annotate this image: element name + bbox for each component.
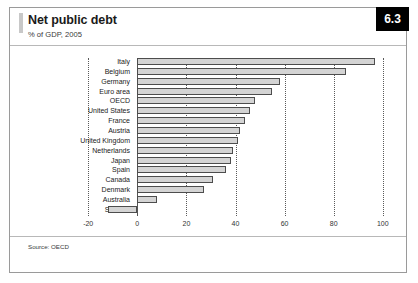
bar <box>137 127 240 134</box>
bar <box>137 97 255 104</box>
bar <box>137 147 233 154</box>
bar <box>137 107 250 114</box>
bar <box>137 78 279 85</box>
bar <box>137 166 225 173</box>
figure-root: Net public debt % of GDP, 2005 6.3 Sourc… <box>0 0 418 283</box>
bar <box>108 206 137 213</box>
plot-area: -20020406080100 ItalyBelgiumGermanyEuro … <box>0 0 418 283</box>
bar <box>137 137 238 144</box>
bar <box>137 186 203 193</box>
bar <box>137 58 375 65</box>
bar-series <box>0 0 418 283</box>
bar <box>137 157 230 164</box>
bar <box>137 88 272 95</box>
bar <box>137 176 213 183</box>
bar <box>137 196 157 203</box>
bar <box>137 117 245 124</box>
bar <box>137 68 346 75</box>
